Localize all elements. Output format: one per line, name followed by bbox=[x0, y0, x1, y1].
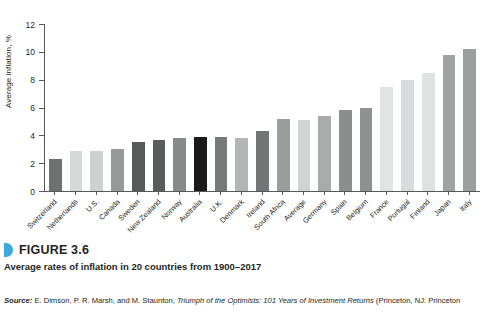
bar-belgium bbox=[360, 108, 373, 192]
bar-switzerland bbox=[49, 159, 62, 191]
bar-france bbox=[380, 87, 393, 191]
y-axis-tick: 0 bbox=[39, 191, 44, 192]
bar-south-africa bbox=[277, 119, 290, 191]
figure-heading: FIGURE 3.6 bbox=[0, 243, 484, 257]
x-axis-tick bbox=[220, 191, 221, 195]
bar-slot bbox=[298, 24, 311, 191]
bar-slot bbox=[277, 24, 290, 191]
x-axis-tick bbox=[365, 191, 366, 195]
bar-spain bbox=[339, 110, 352, 191]
source-note: Source: E. Dimson, P. R. Marsh, and M. S… bbox=[4, 296, 482, 305]
plot-area: 024681012 SwitzerlandNetherlandsU.S.Cana… bbox=[44, 24, 480, 192]
x-axis-tick bbox=[407, 191, 408, 195]
x-axis-label-japan: Japan bbox=[433, 198, 452, 217]
x-axis-tick bbox=[179, 191, 180, 195]
bar-ireland bbox=[256, 131, 269, 191]
x-axis-tick bbox=[469, 191, 470, 195]
x-axis-tick bbox=[158, 191, 159, 195]
y-axis-tick-label: 4 bbox=[30, 132, 35, 141]
y-axis-tick: 2 bbox=[39, 163, 44, 164]
x-axis-label-belgium: Belgium bbox=[345, 198, 369, 222]
source-publisher: (Princeton, NJ: Princeton bbox=[374, 296, 461, 305]
bar-slot bbox=[215, 24, 228, 191]
bar-slot bbox=[443, 24, 456, 191]
y-axis-tick-label: 6 bbox=[30, 104, 35, 113]
x-axis-tick bbox=[448, 191, 449, 195]
bar-slot bbox=[70, 24, 83, 191]
bar-slot bbox=[339, 24, 352, 191]
bar-series bbox=[45, 24, 480, 191]
x-axis-tick bbox=[324, 191, 325, 195]
y-axis-tick: 10 bbox=[39, 52, 44, 53]
y-axis-tick-label: 12 bbox=[26, 20, 35, 29]
source-authors: E. Dimson, P. R. Marsh, and M. Staunton, bbox=[32, 296, 177, 305]
bar-slot bbox=[111, 24, 124, 191]
x-axis-label-canada: Canada bbox=[97, 198, 121, 222]
y-axis-tick: 8 bbox=[39, 80, 44, 81]
x-axis-tick bbox=[199, 191, 200, 195]
bar-australia bbox=[194, 137, 207, 191]
x-axis-tick bbox=[117, 191, 118, 195]
x-axis-tick bbox=[137, 191, 138, 195]
x-axis-tick bbox=[96, 191, 97, 195]
x-axis-label-portugal: Portugal bbox=[386, 198, 411, 223]
bar-slot bbox=[132, 24, 145, 191]
x-axis-tick bbox=[75, 191, 76, 195]
source-work-title: Triumph of the Optimists: 101 Years of I… bbox=[177, 296, 374, 305]
bar-italy bbox=[463, 49, 476, 191]
x-axis-tick bbox=[303, 191, 304, 195]
bar-u-s bbox=[90, 151, 103, 191]
y-axis-tick: 4 bbox=[39, 135, 44, 136]
x-axis-tick bbox=[54, 191, 55, 195]
x-axis-tick bbox=[262, 191, 263, 195]
y-axis-tick: 12 bbox=[39, 24, 44, 25]
bar-slot bbox=[360, 24, 373, 191]
bar-slot bbox=[256, 24, 269, 191]
source-label: Source: bbox=[4, 296, 32, 305]
bar-germany bbox=[318, 116, 331, 191]
figure-title: Average rates of inflation in 20 countri… bbox=[0, 261, 484, 272]
bar-slot bbox=[235, 24, 248, 191]
x-axis-label-u-s: U.S. bbox=[85, 198, 100, 213]
figure-caption-block: FIGURE 3.6 Average rates of inflation in… bbox=[0, 243, 484, 272]
bar-norway bbox=[173, 138, 186, 191]
figure-number: FIGURE 3.6 bbox=[19, 243, 89, 257]
y-axis-tick: 6 bbox=[39, 108, 44, 109]
bar-u-k bbox=[215, 137, 228, 191]
bar-canada bbox=[111, 149, 124, 191]
y-axis-title: Average inflation, % bbox=[4, 35, 13, 108]
bar-slot bbox=[463, 24, 476, 191]
bar-slot bbox=[318, 24, 331, 191]
bar-slot bbox=[90, 24, 103, 191]
bar-netherlands bbox=[70, 151, 83, 191]
bar-denmark bbox=[235, 138, 248, 191]
figure-marker-icon bbox=[4, 243, 13, 257]
bar-slot bbox=[401, 24, 414, 191]
x-axis-tick bbox=[241, 191, 242, 195]
bar-slot bbox=[380, 24, 393, 191]
x-axis-tick bbox=[386, 191, 387, 195]
chart-panel: Average inflation, % 024681012 Switzerla… bbox=[0, 0, 484, 238]
y-axis-tick-label: 8 bbox=[30, 76, 35, 85]
x-axis-tick bbox=[344, 191, 345, 195]
x-axis-tick bbox=[282, 191, 283, 195]
bar-finland bbox=[422, 73, 435, 191]
y-axis-tick-label: 2 bbox=[30, 159, 35, 168]
bar-slot bbox=[49, 24, 62, 191]
bar-new-zealand bbox=[153, 140, 166, 191]
x-axis-tick bbox=[427, 191, 428, 195]
bar-japan bbox=[443, 55, 456, 191]
y-axis-tick-label: 0 bbox=[30, 187, 35, 196]
bar-slot bbox=[194, 24, 207, 191]
bar-average bbox=[298, 120, 311, 191]
x-axis-label-u-k: U.K. bbox=[209, 198, 224, 213]
bar-portugal bbox=[401, 80, 414, 191]
bar-sweden bbox=[132, 142, 145, 191]
x-axis-label-italy: Italy bbox=[458, 198, 473, 213]
y-axis-tick-label: 10 bbox=[26, 48, 35, 57]
bar-slot bbox=[173, 24, 186, 191]
bar-slot bbox=[153, 24, 166, 191]
bar-slot bbox=[422, 24, 435, 191]
x-axis-label-finland: Finland bbox=[409, 198, 431, 220]
